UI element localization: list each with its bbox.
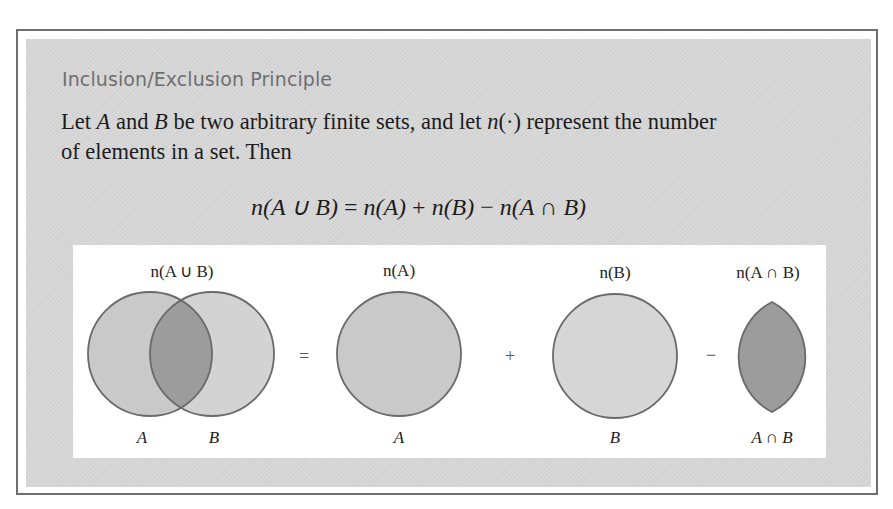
label-set-b-single: B [610, 428, 620, 448]
label-set-a: A [137, 428, 147, 448]
set-a-circle-icon [337, 292, 461, 416]
label-set-a-single: A [394, 428, 404, 448]
union-venn [88, 292, 274, 416]
set-a-name: A [394, 428, 404, 447]
intersection-lens-icon [739, 302, 806, 412]
plus-operator: + [505, 346, 515, 367]
label-n-a: n(A) [383, 261, 415, 281]
set-b-name: B [209, 428, 219, 447]
set-b-name: B [610, 428, 620, 447]
set-a-name: A [137, 428, 147, 447]
label-intersection: n(A ∩ B) [736, 263, 799, 283]
label-set-b: B [209, 428, 219, 448]
label-union: n(A ∪ B) [151, 261, 214, 282]
minus-operator: − [706, 345, 716, 366]
intersection-name: A ∩ B [751, 428, 792, 447]
label-a-intersect-b: A ∩ B [751, 428, 792, 448]
equals-operator: = [299, 346, 309, 367]
label-n-b: n(B) [599, 263, 630, 283]
set-b-circle-icon [553, 294, 677, 418]
